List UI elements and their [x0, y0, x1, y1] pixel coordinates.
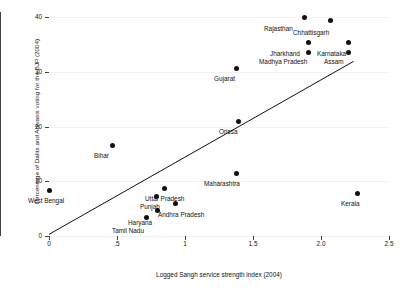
data-point-label: Andhra Pradesh: [158, 211, 204, 218]
data-point-label: Chhattisgarh: [293, 29, 329, 36]
chart-canvas: Percentage of Dalits and Adivasis voting…: [0, 0, 409, 296]
data-point: [47, 188, 52, 193]
data-point-label: Assam: [324, 58, 344, 65]
data-point: [162, 186, 167, 191]
data-point-label: Gujarat: [214, 75, 235, 82]
data-point: [346, 50, 351, 55]
data-point-label: Tamil Nadu: [112, 227, 144, 234]
data-point-label: Orissa: [219, 128, 237, 135]
data-point-label: Madhya Pradesh: [259, 58, 307, 65]
data-point-label: Uttar Pradesh: [145, 195, 184, 202]
data-point-label: Rajasthan: [264, 25, 293, 32]
data-point-label: Karnataka: [317, 50, 346, 57]
data-point-label: Haryana: [128, 219, 152, 226]
data-point-label: Kerala: [341, 200, 359, 207]
data-point: [355, 191, 360, 196]
data-point: [346, 40, 351, 45]
data-point-label: Maharashtra: [204, 180, 240, 187]
data-point: [154, 194, 159, 199]
data-point-label: West Bengal: [28, 197, 64, 204]
data-point: [236, 119, 241, 124]
data-point-label: Bihar: [94, 152, 109, 159]
data-point-label: Jharkhand: [270, 50, 300, 57]
data-point: [234, 171, 239, 176]
data-point: [302, 15, 307, 20]
